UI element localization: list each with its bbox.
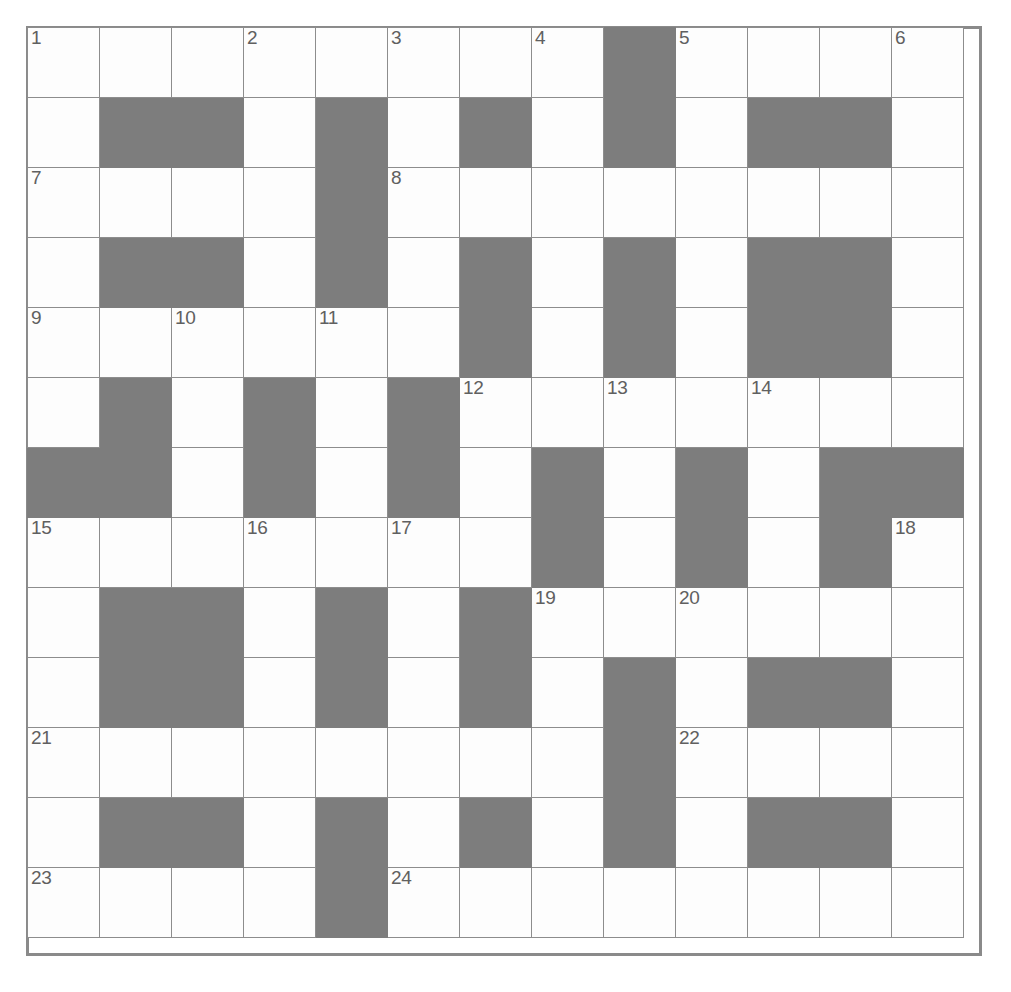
- answer-square[interactable]: 2: [244, 28, 316, 98]
- answer-square[interactable]: [892, 168, 964, 238]
- answer-square[interactable]: [244, 868, 316, 938]
- answer-square[interactable]: 5: [676, 28, 748, 98]
- answer-square[interactable]: [172, 28, 244, 98]
- answer-square[interactable]: [820, 28, 892, 98]
- answer-square[interactable]: [100, 308, 172, 378]
- answer-square[interactable]: [316, 728, 388, 798]
- answer-square[interactable]: [748, 28, 820, 98]
- answer-square[interactable]: [532, 168, 604, 238]
- answer-square[interactable]: [100, 868, 172, 938]
- answer-square[interactable]: 21: [28, 728, 100, 798]
- answer-square[interactable]: [172, 518, 244, 588]
- answer-square[interactable]: [172, 868, 244, 938]
- answer-square[interactable]: [244, 658, 316, 728]
- answer-square[interactable]: [820, 168, 892, 238]
- answer-square[interactable]: 23: [28, 868, 100, 938]
- answer-square[interactable]: [532, 238, 604, 308]
- answer-square[interactable]: [892, 238, 964, 308]
- answer-square[interactable]: [748, 868, 820, 938]
- answer-square[interactable]: [604, 868, 676, 938]
- answer-square[interactable]: [172, 168, 244, 238]
- answer-square[interactable]: [748, 518, 820, 588]
- answer-square[interactable]: 19: [532, 588, 604, 658]
- answer-square[interactable]: [28, 798, 100, 868]
- answer-square[interactable]: [676, 238, 748, 308]
- answer-square[interactable]: [244, 728, 316, 798]
- answer-square[interactable]: [676, 868, 748, 938]
- answer-square[interactable]: [892, 728, 964, 798]
- answer-square[interactable]: [460, 518, 532, 588]
- answer-square[interactable]: [820, 588, 892, 658]
- answer-square[interactable]: [892, 798, 964, 868]
- answer-square[interactable]: [892, 588, 964, 658]
- answer-square[interactable]: [460, 448, 532, 518]
- answer-square[interactable]: 7: [28, 168, 100, 238]
- answer-square[interactable]: 22: [676, 728, 748, 798]
- answer-square[interactable]: [748, 588, 820, 658]
- answer-square[interactable]: [676, 308, 748, 378]
- answer-square[interactable]: 4: [532, 28, 604, 98]
- answer-square[interactable]: [28, 98, 100, 168]
- answer-square[interactable]: [820, 868, 892, 938]
- answer-square[interactable]: [676, 98, 748, 168]
- answer-square[interactable]: [388, 798, 460, 868]
- answer-square[interactable]: [532, 798, 604, 868]
- answer-square[interactable]: [748, 728, 820, 798]
- answer-square[interactable]: [100, 728, 172, 798]
- answer-square[interactable]: [892, 658, 964, 728]
- answer-square[interactable]: 15: [28, 518, 100, 588]
- answer-square[interactable]: [460, 28, 532, 98]
- answer-square[interactable]: [244, 308, 316, 378]
- answer-square[interactable]: [388, 588, 460, 658]
- answer-square[interactable]: [388, 728, 460, 798]
- answer-square[interactable]: [388, 658, 460, 728]
- answer-square[interactable]: 10: [172, 308, 244, 378]
- answer-square[interactable]: [172, 728, 244, 798]
- answer-square[interactable]: [244, 168, 316, 238]
- answer-square[interactable]: [892, 868, 964, 938]
- answer-square[interactable]: 14: [748, 378, 820, 448]
- crossword-grid[interactable]: 123456789101112131415161718192021222324: [27, 27, 964, 938]
- answer-square[interactable]: [532, 728, 604, 798]
- answer-square[interactable]: 20: [676, 588, 748, 658]
- answer-square[interactable]: 11: [316, 308, 388, 378]
- answer-square[interactable]: [244, 238, 316, 308]
- answer-square[interactable]: [28, 238, 100, 308]
- answer-square[interactable]: 13: [604, 378, 676, 448]
- answer-square[interactable]: 18: [892, 518, 964, 588]
- answer-square[interactable]: [676, 798, 748, 868]
- answer-square[interactable]: [316, 28, 388, 98]
- answer-square[interactable]: 9: [28, 308, 100, 378]
- answer-square[interactable]: [316, 378, 388, 448]
- answer-square[interactable]: [748, 168, 820, 238]
- answer-square[interactable]: [532, 98, 604, 168]
- answer-square[interactable]: [28, 588, 100, 658]
- answer-square[interactable]: [388, 308, 460, 378]
- answer-square[interactable]: [244, 798, 316, 868]
- answer-square[interactable]: [892, 308, 964, 378]
- answer-square[interactable]: [100, 168, 172, 238]
- answer-square[interactable]: 24: [388, 868, 460, 938]
- answer-square[interactable]: [100, 28, 172, 98]
- answer-square[interactable]: [892, 378, 964, 448]
- answer-square[interactable]: [100, 518, 172, 588]
- answer-square[interactable]: [892, 98, 964, 168]
- answer-square[interactable]: [676, 168, 748, 238]
- answer-square[interactable]: [604, 518, 676, 588]
- answer-square[interactable]: [172, 448, 244, 518]
- answer-square[interactable]: [316, 448, 388, 518]
- answer-square[interactable]: [604, 168, 676, 238]
- answer-square[interactable]: [532, 658, 604, 728]
- answer-square[interactable]: [460, 168, 532, 238]
- answer-square[interactable]: [460, 868, 532, 938]
- answer-square[interactable]: 17: [388, 518, 460, 588]
- answer-square[interactable]: [316, 518, 388, 588]
- answer-square[interactable]: [388, 238, 460, 308]
- answer-square[interactable]: 1: [28, 28, 100, 98]
- answer-square[interactable]: 8: [388, 168, 460, 238]
- answer-square[interactable]: 12: [460, 378, 532, 448]
- answer-square[interactable]: [676, 658, 748, 728]
- answer-square[interactable]: [28, 378, 100, 448]
- answer-square[interactable]: [604, 588, 676, 658]
- answer-square[interactable]: 3: [388, 28, 460, 98]
